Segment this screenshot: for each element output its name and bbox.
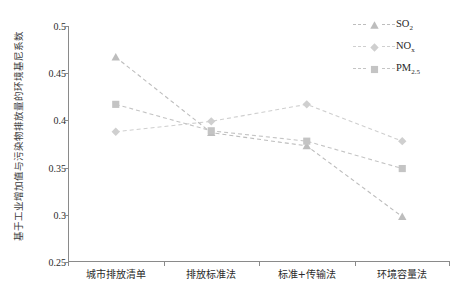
- legend-label-PM2.5: PM2.5: [396, 62, 420, 76]
- y-axis-title-container: 基于工业增加值与污染物排放量的环境基尼系数: [6, 0, 30, 272]
- y-tick-label: 0.4: [32, 115, 66, 126]
- legend-item-NOx[interactable]: NOx: [352, 36, 452, 58]
- legend-dash-left: [353, 24, 366, 25]
- legend-marker-square-icon: [369, 64, 380, 75]
- legend-item-PM2.5[interactable]: PM2.5: [352, 58, 452, 80]
- y-tick-mark: [64, 215, 68, 216]
- legend-dash-right: [382, 24, 395, 25]
- legend-marker-diamond-icon: [369, 42, 380, 53]
- data-point-marker: [112, 101, 119, 108]
- y-tick-label: 0.45: [32, 68, 66, 79]
- y-tick-mark: [64, 26, 68, 27]
- data-point-marker: [370, 21, 378, 29]
- y-tick-label: 0.5: [32, 21, 66, 32]
- data-point-marker: [399, 165, 406, 172]
- data-point-marker: [371, 66, 378, 73]
- legend-dash-right: [382, 46, 395, 47]
- data-point-marker: [208, 127, 215, 134]
- series-line-SO2: [116, 57, 403, 217]
- legend-marker-triangle-icon: [369, 20, 380, 31]
- legend-key-PM2.5: [352, 62, 396, 76]
- data-point-marker: [303, 100, 311, 108]
- legend-label-NOx: NOx: [396, 40, 415, 54]
- data-point-marker: [112, 53, 120, 61]
- x-category-label: 标准+传输法: [259, 266, 355, 286]
- legend-key-SO2: [352, 18, 396, 32]
- legend-dash-left: [353, 46, 366, 47]
- data-point-marker: [398, 212, 406, 220]
- data-point-marker: [370, 43, 378, 51]
- data-point-marker: [303, 138, 310, 145]
- x-category-label: 城市排放清单: [68, 266, 164, 286]
- x-axis-category-labels: 城市排放清单排放标准法标准+传输法环境容量法: [68, 266, 450, 286]
- legend-label-SO2: SO2: [396, 18, 413, 32]
- legend-dash-right: [382, 68, 395, 69]
- y-tick-mark: [64, 73, 68, 74]
- y-tick-label: 0.25: [32, 257, 66, 268]
- y-tick-label: 0.35: [32, 162, 66, 173]
- y-axis-title: 基于工业增加值与污染物排放量的环境基尼系数: [11, 31, 25, 241]
- y-tick-label: 0.3: [32, 209, 66, 220]
- legend-item-SO2[interactable]: SO2: [352, 14, 452, 36]
- data-point-marker: [207, 117, 215, 125]
- y-tick-mark: [64, 168, 68, 169]
- chart-figure: 基于工业增加值与污染物排放量的环境基尼系数 0.250.30.350.40.45…: [0, 0, 456, 298]
- y-tick-mark: [64, 120, 68, 121]
- legend-key-NOx: [352, 40, 396, 54]
- y-axis-tick-labels: 0.250.30.350.40.450.5: [28, 0, 66, 298]
- data-point-marker: [398, 137, 406, 145]
- series-line-PM2.5: [116, 104, 403, 168]
- x-category-label: 环境容量法: [355, 266, 451, 286]
- x-category-label: 排放标准法: [164, 266, 260, 286]
- legend: SO2NOxPM2.5: [352, 14, 452, 80]
- data-point-marker: [112, 128, 120, 136]
- legend-dash-left: [353, 68, 366, 69]
